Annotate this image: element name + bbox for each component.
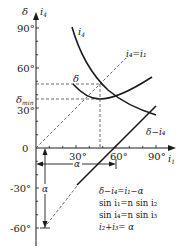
- delta-min-label: δmin: [16, 94, 34, 106]
- arrow-left-icon: [36, 162, 43, 167]
- arrow-down-icon: [43, 221, 48, 228]
- arrow-right-icon: [109, 162, 116, 167]
- alpha-vertical-label: α: [42, 184, 48, 194]
- i4-eq-i1-label: i₄=i₁: [126, 49, 147, 59]
- x-tick-60: 60°: [110, 151, 128, 162]
- i4-curve-label: i4: [78, 26, 85, 38]
- equations: δ−i₄=i₁−α sin i₁=n sin i₂ sin i₄=n sin i…: [99, 186, 157, 232]
- equation-2: sin i₁=n sin i₂: [99, 198, 157, 208]
- y-label-delta: δ: [22, 6, 28, 17]
- equation-3: sin i₄=n sin i₃: [99, 210, 157, 220]
- equation-1: δ−i₄=i₁−α: [99, 186, 144, 196]
- y-axis-arrow-icon: [33, 12, 39, 20]
- y-axis: [33, 12, 39, 246]
- delta-curve: [73, 77, 152, 99]
- delta-minus-i4-line: [77, 106, 156, 185]
- x-label-i1: i1: [168, 153, 175, 165]
- equation-4: i₂+i₃= α: [99, 222, 134, 232]
- i4-curve: [72, 27, 156, 115]
- delta-minus-i4-label: δ−i₄: [146, 127, 166, 137]
- alpha-horizontal-label: α: [74, 159, 80, 169]
- delta-curve-label: δ: [73, 73, 79, 84]
- y-label-i4: i4: [40, 6, 47, 18]
- x-tick-90: 90°: [148, 151, 166, 162]
- y-tick-60: 60°: [17, 63, 35, 74]
- y-tick-30: 30°: [17, 105, 35, 116]
- y-tick-neg60: -60°: [10, 223, 31, 234]
- i4-equals-i1-line: [36, 58, 126, 148]
- y-tick-neg30: -30°: [10, 183, 31, 194]
- y-tick-90: 90°: [17, 23, 35, 34]
- y-tick-0: 0: [22, 143, 28, 154]
- prism-deviation-diagram: δ i4 90° 60° 30° 0 -30° -60° δmin 30° 60…: [0, 0, 183, 250]
- x-axis-arrow-icon: [168, 145, 176, 151]
- arrow-up-icon: [43, 148, 48, 155]
